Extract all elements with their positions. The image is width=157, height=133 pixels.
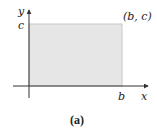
figure-caption: (a) — [70, 113, 84, 127]
x-tick-label-b: b — [118, 90, 125, 103]
y-axis-label: y — [17, 5, 25, 18]
rectangle-diagram: y x c b (b, c) (a) — [0, 0, 157, 133]
shaded-rectangle-region — [29, 24, 122, 86]
x-axis-label: x — [141, 90, 148, 103]
corner-point-label: (b, c) — [123, 10, 152, 23]
y-tick-label-c: c — [18, 19, 24, 32]
